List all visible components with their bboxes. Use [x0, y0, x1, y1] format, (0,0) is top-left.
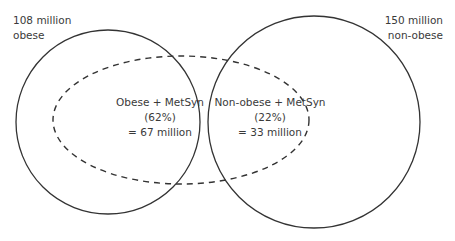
nonobese-metsyn-percent: (22%)	[204, 110, 336, 125]
nonobese-metsyn-region-label: Non-obese + MetSyn (22%) = 33 million	[204, 95, 336, 140]
obese-set-label: 108 million obese	[13, 13, 71, 43]
non-obese-set-label: 150 million non-obese	[385, 13, 443, 43]
non-obese-count: 150 million	[385, 13, 443, 28]
nonobese-metsyn-count: = 33 million	[204, 125, 336, 140]
obese-count: 108 million	[13, 13, 71, 28]
nonobese-metsyn-title: Non-obese + MetSyn	[204, 95, 336, 110]
obese-name: obese	[13, 28, 71, 43]
non-obese-name: non-obese	[385, 28, 443, 43]
